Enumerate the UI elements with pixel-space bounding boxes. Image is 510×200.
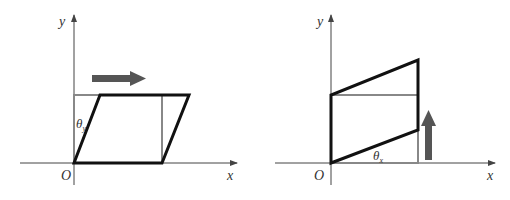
origin-label: O [61, 168, 71, 183]
right-arrow-icon [92, 71, 146, 86]
angle-label: θy [76, 116, 86, 133]
figure-shear-y: y O x θx [275, 14, 495, 185]
y-axis-label: y [315, 14, 324, 29]
sheared-parallelogram [74, 95, 189, 163]
figure-shear-x: y O x θy [20, 14, 237, 185]
x-axis-label: x [486, 168, 494, 183]
x-axis-label: x [226, 168, 234, 183]
y-axis-label: y [57, 14, 66, 29]
up-arrow-icon [421, 110, 436, 160]
shear-diagram: y O x θy y O x θx [0, 0, 510, 200]
angle-label: θx [373, 148, 383, 165]
origin-label: O [314, 168, 324, 183]
